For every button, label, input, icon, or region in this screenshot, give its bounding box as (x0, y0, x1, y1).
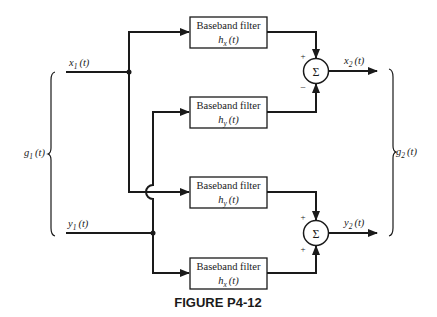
g2-brace (389, 69, 396, 236)
figure-caption: FIGURE P4-12 (174, 295, 261, 310)
y2-label: y2(t) (343, 217, 365, 231)
summer-1-bottom-sign: − (300, 82, 306, 93)
g1-brace (48, 72, 55, 236)
y1-label: y1(t) (67, 218, 89, 232)
summer-1: Σ + − (300, 51, 328, 93)
filter2-to-sum1 (267, 84, 316, 112)
filter4-to-sum2 (267, 246, 316, 273)
summer-1-top-sign: + (300, 51, 305, 61)
summer-2-top-sign: + (300, 212, 305, 222)
filter1-to-sum1 (267, 32, 316, 58)
block-diagram: Baseband filter hx(t) Baseband filter hy… (0, 0, 437, 317)
x2-label: x2(t) (343, 55, 365, 69)
filter-3-title: Baseband filter (197, 180, 261, 191)
filter3-to-sum2 (267, 192, 316, 220)
y1-junction-dot (151, 231, 156, 236)
filter-1-title: Baseband filter (197, 20, 261, 31)
x1-junction-dot (127, 70, 132, 75)
sigma-icon: Σ (313, 65, 320, 79)
g2-label: g2(t) (396, 146, 417, 160)
x1-label: x1(t) (68, 57, 90, 71)
summer-2-bottom-sign: + (300, 244, 305, 254)
summer-2: Σ + + (300, 212, 328, 254)
filter-2-title: Baseband filter (197, 100, 261, 111)
filter-4-title: Baseband filter (197, 261, 261, 272)
sigma-icon: Σ (313, 227, 320, 241)
g1-label: g1(t) (24, 147, 45, 161)
